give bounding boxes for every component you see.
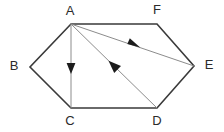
hexagon-diagram-svg: A B C D E F bbox=[0, 0, 224, 132]
vertex-label-d: D bbox=[152, 113, 161, 128]
vertex-label-c: C bbox=[65, 113, 74, 128]
vertex-label-f: F bbox=[153, 2, 161, 17]
arrowhead-a-to-c-icon bbox=[67, 63, 76, 74]
vertex-label-e: E bbox=[205, 57, 214, 72]
vertex-label-a: A bbox=[66, 3, 75, 18]
arrowhead-a-to-e-icon bbox=[127, 38, 140, 47]
vertex-label-b: B bbox=[10, 58, 19, 73]
geometry-figure: A B C D E F bbox=[0, 0, 224, 132]
